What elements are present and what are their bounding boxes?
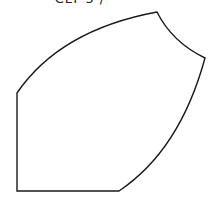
diagram-canvas: [0, 0, 217, 202]
curved-polygon-shape: [17, 12, 205, 191]
